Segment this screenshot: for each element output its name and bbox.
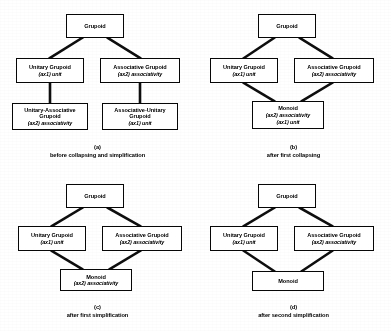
node-axiom: (ax2) associativity: [312, 239, 357, 245]
node-monoid[interactable]: Monoid (ax2) associativity: [60, 269, 132, 291]
panel-c: Grupoid Unitary Grupoid (ax1) unit Assoc…: [0, 166, 195, 331]
node-axiom: (ax1) unit: [39, 71, 62, 77]
edge-associative-monoid: [110, 251, 140, 269]
node-grupoid[interactable]: Grupoid: [66, 14, 124, 38]
node-title: Associative Grupoid: [115, 232, 168, 238]
caption-text: before collapsing and simplification: [0, 152, 195, 160]
node-unitary-grupoid[interactable]: Unitary Grupoid (ax1) unit: [210, 226, 278, 251]
caption-text: after first simplification: [0, 312, 195, 320]
node-title: Grupoid: [276, 193, 297, 199]
edge-grupoid-unitary: [52, 208, 82, 226]
edge-grupoid-unitary: [50, 38, 82, 58]
figure-hierarchy-diagrams: Grupoid Unitary Grupoid (ax1) unit Assoc…: [0, 0, 391, 331]
node-title: Grupoid: [276, 23, 297, 29]
panel-a: Grupoid Unitary Grupoid (ax1) unit Assoc…: [0, 0, 195, 165]
panel-d-caption: (d) after second simplification: [196, 304, 391, 319]
panel-d: Grupoid Unitary Grupoid (ax1) unit Assoc…: [196, 166, 391, 331]
caption-text: after second simplification: [196, 312, 391, 320]
node-title: Grupoid: [84, 193, 105, 199]
caption-label: (b): [196, 144, 391, 152]
node-unitary-grupoid[interactable]: Unitary Grupoid (ax1) unit: [16, 58, 84, 83]
edge-grupoid-associative: [300, 208, 332, 226]
node-grupoid[interactable]: Grupoid: [66, 184, 124, 208]
edge-grupoid-associative: [108, 38, 140, 58]
node-axiom: (ax2) associativity: [312, 71, 357, 77]
node-grupoid[interactable]: Grupoid: [258, 184, 316, 208]
node-axiom: (ax2) associativity: [74, 280, 119, 286]
node-axiom: (ax2) associativity: [118, 71, 163, 77]
edge-grupoid-unitary: [244, 38, 274, 58]
caption-text: after first collapsing: [196, 152, 391, 160]
node-monoid[interactable]: Monoid (ax2) associativity (ax1) unit: [252, 101, 324, 129]
edge-grupoid-unitary: [244, 208, 274, 226]
node-axiom: (ax2) associativity: [266, 112, 311, 118]
node-title: Unitary Grupoid: [31, 232, 73, 238]
edge-grupoid-associative: [108, 208, 140, 226]
node-associative-grupoid[interactable]: Associative Grupoid (ax2) associativity: [100, 58, 180, 83]
node-title: Grupoid: [84, 23, 105, 29]
edge-associative-monoid: [302, 251, 332, 271]
node-unitary-grupoid[interactable]: Unitary Grupoid (ax1) unit: [210, 58, 278, 83]
node-title: Associative Grupoid: [307, 232, 360, 238]
edge-grupoid-associative: [300, 38, 332, 58]
node-associative-grupoid[interactable]: Associative Grupoid (ax2) associativity: [102, 226, 182, 251]
node-axiom: (ax1) unit: [277, 119, 300, 125]
node-title: Associative Grupoid: [307, 64, 360, 70]
edge-unitary-monoid: [52, 251, 82, 269]
node-title: Associative-Unitary Grupoid: [105, 107, 175, 120]
node-associative-unitary-grupoid[interactable]: Associative-Unitary Grupoid (ax1) unit: [102, 103, 178, 130]
node-monoid[interactable]: Monoid: [252, 271, 324, 291]
node-axiom: (ax1) unit: [233, 239, 256, 245]
node-title: Unitary Grupoid: [29, 64, 71, 70]
node-title: Monoid: [86, 274, 106, 280]
node-associative-grupoid[interactable]: Associative Grupoid (ax2) associativity: [294, 58, 374, 83]
node-axiom: (ax1) unit: [233, 71, 256, 77]
panel-a-caption: (a) before collapsing and simplification: [0, 144, 195, 159]
node-title: Unitary-Associative Grupoid: [15, 107, 85, 120]
panel-b: Grupoid Unitary Grupoid (ax1) unit Assoc…: [196, 0, 391, 165]
node-axiom: (ax1) unit: [41, 239, 64, 245]
node-axiom: (ax2) associativity: [28, 120, 73, 126]
node-title: Unitary Grupoid: [223, 64, 265, 70]
edge-unitary-monoid: [244, 83, 274, 101]
node-associative-grupoid[interactable]: Associative Grupoid (ax2) associativity: [294, 226, 374, 251]
edge-unitary-monoid: [244, 251, 274, 271]
node-title: Unitary Grupoid: [223, 232, 265, 238]
node-axiom: (ax2) associativity: [120, 239, 165, 245]
caption-label: (d): [196, 304, 391, 312]
node-title: Associative Grupoid: [113, 64, 166, 70]
node-grupoid[interactable]: Grupoid: [258, 14, 316, 38]
caption-label: (a): [0, 144, 195, 152]
node-unitary-grupoid[interactable]: Unitary Grupoid (ax1) unit: [18, 226, 86, 251]
node-axiom: (ax1) unit: [129, 120, 152, 126]
edge-associative-monoid: [302, 83, 332, 101]
panel-c-caption: (c) after first simplification: [0, 304, 195, 319]
node-unitary-associative-grupoid[interactable]: Unitary-Associative Grupoid (ax2) associ…: [12, 103, 88, 130]
caption-label: (c): [0, 304, 195, 312]
panel-b-caption: (b) after first collapsing: [196, 144, 391, 159]
node-title: Monoid: [278, 105, 298, 111]
node-title: Monoid: [278, 278, 298, 284]
